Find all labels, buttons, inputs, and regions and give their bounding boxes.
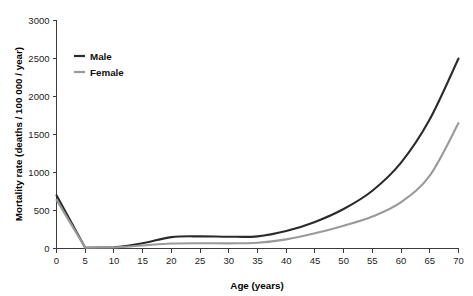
y-axis-title: Mortality rate (deaths / 100 000 / year) bbox=[13, 47, 24, 221]
data-series-group bbox=[57, 59, 459, 248]
y-tick-label: 3000 bbox=[28, 15, 49, 26]
x-tick-label: 65 bbox=[424, 255, 435, 266]
y-tick-label: 0 bbox=[44, 243, 49, 254]
x-tick-label: 10 bbox=[109, 255, 120, 266]
mortality-rate-line-chart: 050010001500200025003000 051015202530354… bbox=[0, 0, 473, 296]
x-axis-title: Age (years) bbox=[230, 280, 283, 291]
x-tick-label: 35 bbox=[252, 255, 263, 266]
y-tick-label: 500 bbox=[34, 205, 50, 216]
chart-legend: MaleFemale bbox=[74, 51, 124, 78]
y-tick-label: 2000 bbox=[28, 91, 49, 102]
x-tick-label: 70 bbox=[453, 255, 464, 266]
y-tick-label: 1000 bbox=[28, 167, 49, 178]
x-tick-label: 50 bbox=[338, 255, 349, 266]
x-tick-label: 5 bbox=[83, 255, 88, 266]
x-tick-label: 30 bbox=[223, 255, 234, 266]
x-tick-label: 40 bbox=[281, 255, 292, 266]
x-tick-label: 0 bbox=[54, 255, 59, 266]
legend-label-female: Female bbox=[90, 67, 124, 78]
x-axis-ticks: 0510152025303540455055606570 bbox=[54, 249, 464, 266]
x-tick-label: 25 bbox=[195, 255, 206, 266]
y-axis-ticks: 050010001500200025003000 bbox=[28, 15, 56, 254]
series-line-male bbox=[57, 59, 459, 248]
x-tick-label: 60 bbox=[396, 255, 407, 266]
y-tick-label: 2500 bbox=[28, 53, 49, 64]
legend-label-male: Male bbox=[90, 51, 112, 62]
x-tick-label: 45 bbox=[310, 255, 321, 266]
y-tick-label: 1500 bbox=[28, 129, 49, 140]
series-line-female bbox=[57, 123, 459, 247]
x-tick-label: 55 bbox=[367, 255, 378, 266]
chart-figure: 050010001500200025003000 051015202530354… bbox=[0, 0, 473, 296]
x-tick-label: 20 bbox=[166, 255, 177, 266]
x-tick-label: 15 bbox=[137, 255, 148, 266]
